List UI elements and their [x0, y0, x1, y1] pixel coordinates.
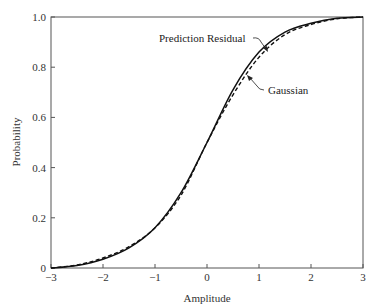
arrow-gaussian — [250, 78, 264, 90]
x-tick-label: −2 — [97, 271, 109, 283]
prediction-residual-curve — [51, 17, 363, 268]
x-tick-label: 1 — [256, 271, 262, 283]
x-axis-label: Amplitude — [183, 292, 230, 304]
x-tick-label: 3 — [360, 271, 366, 283]
y-axis-ticks: 00.20.40.60.81.0 — [32, 11, 55, 274]
x-tick-label: −1 — [149, 271, 161, 283]
cdf-chart: −3−2−10123 00.20.40.60.81.0 Amplitude Pr… — [0, 0, 379, 307]
y-tick-label: 1.0 — [32, 11, 46, 23]
annotation-prediction-residual: Prediction Residual — [159, 32, 245, 44]
y-tick-label: 0.8 — [32, 61, 46, 73]
x-tick-label: 2 — [308, 271, 314, 283]
x-tick-label: −3 — [45, 271, 57, 283]
y-tick-label: 0 — [41, 262, 47, 274]
x-tick-label: 0 — [204, 271, 210, 283]
y-axis-label: Probability — [10, 117, 22, 166]
x-axis-ticks: −3−2−10123 — [45, 264, 366, 283]
annotation-gaussian: Gaussian — [268, 84, 309, 96]
y-tick-label: 0.2 — [32, 212, 46, 224]
y-tick-label: 0.6 — [32, 111, 46, 123]
y-tick-label: 0.4 — [32, 162, 46, 174]
